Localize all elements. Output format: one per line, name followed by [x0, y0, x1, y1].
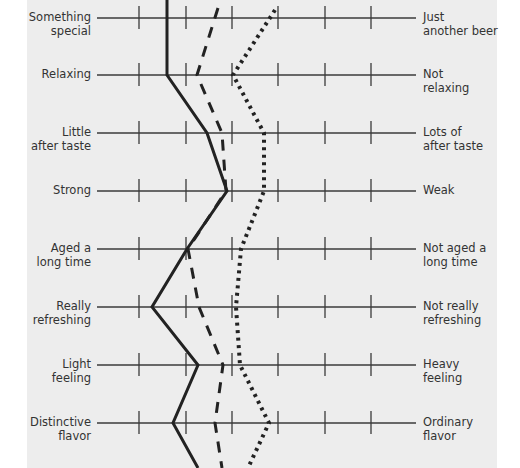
right-label-line: Heavy — [423, 358, 518, 372]
left-scale-label: Lightfeeling — [3, 358, 91, 385]
left-scale-label: Strong — [3, 184, 91, 198]
scale-row-7 — [97, 353, 416, 376]
right-label-line: feeling — [423, 372, 518, 386]
scale-row-4 — [97, 179, 416, 202]
left-label-line: Something — [3, 11, 91, 25]
right-label-line: relaxing — [423, 82, 518, 96]
right-scale-label: Justanother beer — [423, 11, 518, 38]
right-label-line: Lots of — [423, 126, 518, 140]
scale-row-5 — [97, 237, 416, 260]
left-scale-label: Littleafter taste — [3, 126, 91, 153]
left-scale-label: Reallyrefreshing — [3, 300, 91, 327]
left-label-line: special — [3, 25, 91, 39]
right-label-line: Not really — [423, 300, 518, 314]
left-label-line: Light — [3, 358, 91, 372]
scale-row-8 — [97, 411, 416, 434]
left-label-line: Strong — [3, 184, 91, 198]
right-label-line: Ordinary — [423, 416, 518, 430]
right-scale-label: Weak — [423, 184, 518, 198]
left-label-line: Aged a — [3, 242, 91, 256]
right-scale-label: Ordinaryflavor — [423, 416, 518, 443]
right-scale-label: Not reallyrefreshing — [423, 300, 518, 327]
right-label-line: refreshing — [423, 314, 518, 328]
right-scale-label: Notrelaxing — [423, 68, 518, 95]
left-label-line: Distinctive — [3, 416, 91, 430]
left-label-line: Relaxing — [3, 68, 91, 82]
left-label-line: flavor — [3, 430, 91, 444]
scale-row-1 — [97, 6, 416, 29]
series-line-solid — [152, 0, 227, 468]
left-scale-label: Distinctiveflavor — [3, 416, 91, 443]
right-scale-label: Not aged along time — [423, 242, 518, 269]
left-scale-label: Somethingspecial — [3, 11, 91, 38]
left-label-line: Little — [3, 126, 91, 140]
left-label-line: after taste — [3, 140, 91, 154]
right-label-line: long time — [423, 256, 518, 270]
right-label-line: another beer — [423, 25, 518, 39]
right-label-line: after taste — [423, 140, 518, 154]
right-scale-label: Lots ofafter taste — [423, 126, 518, 153]
left-scale-label: Relaxing — [3, 68, 91, 82]
right-label-line: flavor — [423, 430, 518, 444]
right-label-line: Weak — [423, 184, 518, 198]
scale-row-2 — [97, 63, 416, 86]
scale-row-3 — [97, 121, 416, 144]
series-line-dashed — [188, 8, 226, 468]
left-label-line: Really — [3, 300, 91, 314]
right-label-line: Not aged a — [423, 242, 518, 256]
left-scale-label: Aged along time — [3, 242, 91, 269]
right-label-line: Not — [423, 68, 518, 82]
right-scale-label: Heavyfeeling — [423, 358, 518, 385]
scale-row-6 — [97, 295, 416, 318]
right-label-line: Just — [423, 11, 518, 25]
series-line-dotted — [233, 10, 275, 468]
left-label-line: feeling — [3, 372, 91, 386]
left-label-line: long time — [3, 256, 91, 270]
left-label-line: refreshing — [3, 314, 91, 328]
